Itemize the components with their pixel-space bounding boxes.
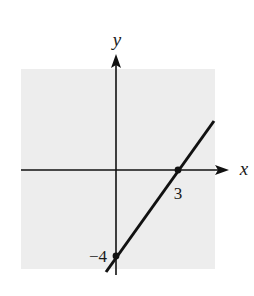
x-intercept-label: 3	[174, 184, 183, 203]
y-axis-label: y	[111, 29, 122, 50]
graph: y x 3 −4	[0, 0, 254, 296]
plot-area-background	[21, 69, 215, 269]
x-intercept-point	[175, 167, 182, 174]
x-axis-label: x	[239, 158, 249, 179]
y-intercept-point	[113, 253, 120, 260]
y-intercept-label: −4	[89, 247, 108, 266]
